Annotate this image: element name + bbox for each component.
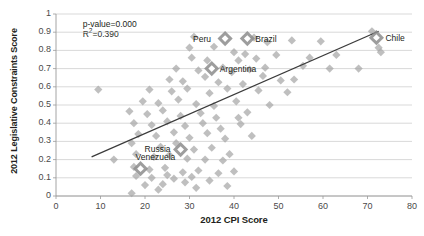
data-point bbox=[165, 75, 173, 83]
data-point bbox=[259, 72, 267, 80]
data-point bbox=[170, 175, 178, 183]
data-point bbox=[139, 97, 147, 105]
data-point bbox=[254, 86, 262, 94]
point-label-brazil: Brazil bbox=[255, 35, 276, 44]
data-point bbox=[154, 99, 162, 107]
data-point bbox=[212, 114, 220, 122]
data-point bbox=[252, 54, 260, 62]
data-point bbox=[201, 156, 209, 164]
data-point bbox=[355, 65, 363, 73]
data-point bbox=[317, 37, 325, 45]
data-point bbox=[192, 184, 200, 192]
data-point bbox=[288, 36, 296, 44]
data-point bbox=[148, 174, 156, 182]
data-point bbox=[214, 78, 222, 86]
data-point bbox=[154, 186, 162, 194]
data-point bbox=[283, 88, 291, 96]
data-point bbox=[185, 134, 193, 142]
data-point bbox=[174, 95, 182, 103]
data-point bbox=[266, 101, 274, 109]
data-point bbox=[237, 120, 245, 128]
data-point bbox=[214, 169, 222, 177]
data-point bbox=[272, 51, 280, 59]
data-point bbox=[223, 182, 231, 190]
data-point bbox=[172, 65, 180, 73]
scatter-chart: 2012 Legislative Constraints Score 2012 … bbox=[0, 0, 424, 236]
data-point bbox=[148, 121, 156, 129]
data-point bbox=[183, 85, 191, 93]
data-point bbox=[208, 144, 216, 152]
data-point bbox=[159, 106, 167, 114]
data-point bbox=[170, 128, 178, 136]
data-point bbox=[194, 166, 202, 174]
data-point bbox=[159, 180, 167, 188]
data-point bbox=[234, 114, 242, 122]
data-point bbox=[190, 145, 198, 153]
point-label-peru: Peru bbox=[193, 35, 235, 44]
data-point bbox=[183, 155, 191, 163]
data-point bbox=[243, 108, 251, 116]
data-point bbox=[181, 178, 189, 186]
data-point bbox=[141, 181, 149, 189]
data-point bbox=[125, 107, 133, 115]
data-point bbox=[225, 150, 233, 158]
data-point bbox=[168, 87, 176, 95]
data-point bbox=[188, 54, 196, 62]
data-point bbox=[179, 77, 187, 85]
data-point bbox=[143, 110, 151, 118]
data-point bbox=[205, 89, 213, 97]
data-point bbox=[290, 75, 298, 83]
data-point bbox=[210, 43, 218, 51]
data-point bbox=[188, 173, 196, 181]
data-point bbox=[161, 164, 169, 172]
point-label-argentina: Argentina bbox=[220, 65, 256, 74]
data-point bbox=[110, 156, 118, 164]
point-label-venezuela: Venezuela bbox=[136, 153, 178, 162]
data-point bbox=[130, 119, 138, 127]
data-point bbox=[223, 85, 231, 93]
data-point bbox=[248, 132, 256, 140]
data-point bbox=[201, 73, 209, 81]
data-point bbox=[326, 65, 334, 73]
data-point bbox=[194, 66, 202, 74]
data-point bbox=[192, 100, 200, 108]
data-point bbox=[261, 64, 269, 72]
data-point bbox=[152, 132, 160, 140]
data-point bbox=[179, 168, 187, 176]
data-point bbox=[199, 119, 207, 127]
data-point bbox=[230, 48, 238, 56]
data-point bbox=[217, 125, 225, 133]
data-point bbox=[277, 76, 285, 84]
data-point bbox=[332, 51, 340, 59]
data-point bbox=[232, 97, 240, 105]
data-point bbox=[230, 167, 238, 175]
data-point bbox=[203, 129, 211, 137]
data-point bbox=[219, 156, 227, 164]
point-label-chile: Chile bbox=[385, 34, 404, 43]
data-point bbox=[241, 50, 249, 58]
